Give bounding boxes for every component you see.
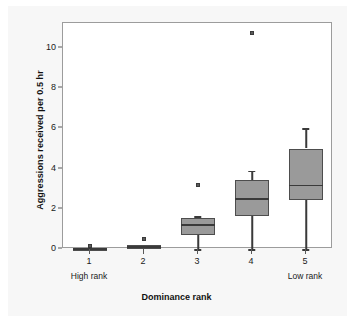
x-axis-title: Dominance rank xyxy=(0,292,353,302)
x-tick-label: 2 xyxy=(140,256,145,266)
whisker-lower xyxy=(197,235,199,249)
x-tick-mark xyxy=(251,249,252,254)
x-tick-mark xyxy=(305,249,306,254)
x-tick-mark xyxy=(197,249,198,254)
x-tick-label: 5 xyxy=(302,256,307,266)
median-line xyxy=(181,224,215,226)
y-tick-label: 8 xyxy=(51,82,56,92)
median-line xyxy=(73,248,107,250)
x-sub-label: High rank xyxy=(71,271,107,281)
plot-area xyxy=(62,22,332,248)
outlier-point xyxy=(88,244,92,248)
median-line xyxy=(127,246,161,248)
y-tick-label: 4 xyxy=(51,163,56,173)
x-tick-mark xyxy=(89,249,90,254)
whisker-cap-lower xyxy=(248,249,255,251)
y-tick-label: 10 xyxy=(46,42,56,52)
y-tick-label: 6 xyxy=(51,122,56,132)
y-tick-label: 0 xyxy=(51,243,56,253)
x-sub-label: Low rank xyxy=(288,271,323,281)
whisker-cap-lower xyxy=(302,249,309,251)
x-tick-label: 4 xyxy=(248,256,253,266)
median-line xyxy=(235,198,269,200)
outlier-point xyxy=(142,237,146,241)
whisker-cap-upper xyxy=(302,128,309,130)
whisker-lower xyxy=(251,216,253,249)
whisker-cap-upper xyxy=(248,171,255,173)
outlier-point xyxy=(250,31,254,35)
box-rect xyxy=(181,218,215,234)
whisker-upper xyxy=(305,128,307,148)
boxplot-figure: Aggressions received per 0.5 hr 0246810 … xyxy=(0,0,353,322)
x-tick-label: 1 xyxy=(86,256,91,266)
y-axis-tick-labels: 0246810 xyxy=(40,0,56,322)
y-tick-label: 2 xyxy=(51,203,56,213)
median-line xyxy=(289,185,323,187)
x-tick-mark xyxy=(143,249,144,254)
whisker-lower xyxy=(305,200,307,249)
x-tick-label: 3 xyxy=(194,256,199,266)
whisker-cap-lower xyxy=(194,249,201,251)
outlier-point xyxy=(196,183,200,187)
box-rect xyxy=(289,149,323,200)
